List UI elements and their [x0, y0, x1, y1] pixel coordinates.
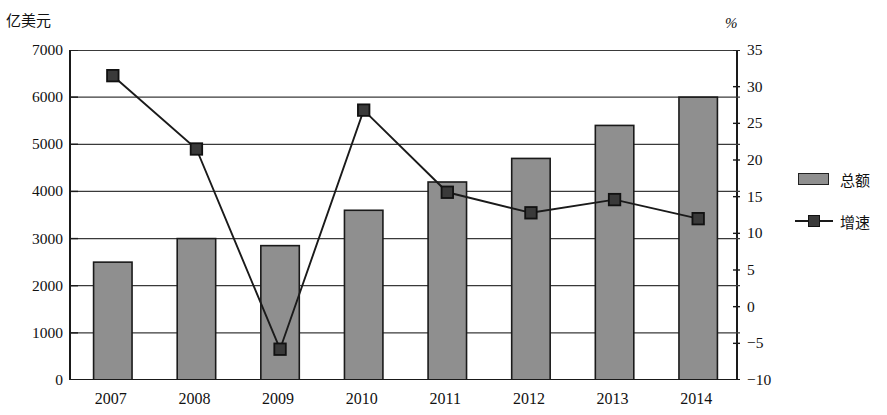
chart-canvas [71, 50, 740, 380]
left-tick-label: 6000 [32, 89, 63, 105]
x-tick-label: 2013 [571, 386, 655, 414]
x-tick-label: 2014 [654, 386, 738, 414]
right-tick-label: −10 [747, 372, 771, 388]
right-tick-label: −5 [747, 335, 764, 351]
bar-2014 [679, 97, 717, 380]
legend-square-marker [808, 215, 820, 227]
right-tick-label: 5 [747, 262, 755, 278]
x-tick-label: 2011 [404, 386, 488, 414]
right-tick-label: 0 [747, 299, 755, 315]
bar-swatch-icon [795, 169, 833, 189]
chart-page: 亿美元 % 70006000500040003000200010000 3530… [0, 0, 887, 415]
left-tick-label: 0 [55, 372, 63, 388]
left-axis-tick-labels: 70006000500040003000200010000 [0, 0, 63, 415]
x-tick-label: 2010 [320, 386, 404, 414]
x-tick-label: 2009 [236, 386, 320, 414]
x-tick-label: 2012 [487, 386, 571, 414]
left-axis-ticks [71, 50, 78, 380]
line-marker-2013 [609, 194, 621, 206]
right-axis-caption: % [725, 16, 738, 31]
left-tick-label: 2000 [32, 278, 63, 294]
line-marker-2007 [107, 70, 119, 82]
line-marker-2010 [358, 104, 370, 116]
left-tick-label: 4000 [32, 183, 63, 199]
legend-item-total: 总额 [795, 158, 885, 200]
line-marker-2009 [274, 343, 286, 355]
line-marker-2008 [191, 143, 203, 155]
bar-2012 [512, 158, 550, 380]
left-tick-label: 3000 [32, 231, 63, 247]
legend-item-label: 总额 [840, 169, 870, 190]
bar-2013 [595, 125, 633, 380]
right-tick-label: 30 [747, 79, 763, 95]
left-tick-label: 7000 [32, 42, 63, 58]
x-tick-label: 2008 [153, 386, 237, 414]
left-tick-label: 1000 [32, 325, 63, 341]
left-tick-label: 5000 [32, 136, 63, 152]
bar-swatch-fill [798, 173, 829, 185]
legend-item-label: 增速 [840, 211, 870, 232]
right-tick-label: 15 [747, 189, 763, 205]
legend-item-growth: 增速 [795, 200, 885, 242]
plot-area [69, 50, 738, 380]
right-tick-label: 10 [747, 225, 763, 241]
x-axis-tick-labels: 20072008200920102011201220132014 [69, 386, 738, 414]
line-marker-swatch-icon [795, 211, 833, 231]
line-marker-2014 [692, 213, 704, 225]
line-marker-2011 [442, 187, 454, 199]
bar-2010 [344, 210, 382, 380]
right-tick-label: 20 [747, 152, 763, 168]
line-marker-2012 [525, 207, 537, 219]
x-tick-label: 2007 [69, 386, 153, 414]
bar-2008 [177, 239, 215, 380]
bar-2007 [94, 262, 132, 380]
bar-2011 [428, 182, 466, 380]
right-tick-label: 35 [747, 42, 763, 58]
right-axis-ticks [733, 50, 740, 380]
right-tick-label: 25 [747, 115, 763, 131]
gridlines [71, 50, 740, 380]
chart-legend: 总额增速 [795, 158, 885, 242]
